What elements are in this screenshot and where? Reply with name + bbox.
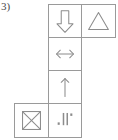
cell-triangle[interactable]	[81, 4, 116, 38]
figure-container: 3)	[0, 0, 118, 140]
block-arrow-down-icon	[49, 5, 81, 37]
cell-crossed-box[interactable]	[14, 103, 49, 138]
cell-arrow-left-right[interactable]	[48, 37, 82, 71]
cell-arrow-up[interactable]	[48, 70, 82, 104]
triangle-outline-icon	[82, 5, 115, 37]
cell-vertical-bars[interactable]	[48, 103, 82, 138]
crossed-square-icon	[15, 104, 48, 137]
figure-label: 3)	[1, 0, 10, 13]
double-headed-horizontal-arrow-icon	[49, 38, 81, 70]
cell-arrow-down[interactable]	[48, 4, 82, 38]
arrow-up-icon	[49, 71, 81, 103]
vertical-bars-icon	[49, 104, 81, 137]
